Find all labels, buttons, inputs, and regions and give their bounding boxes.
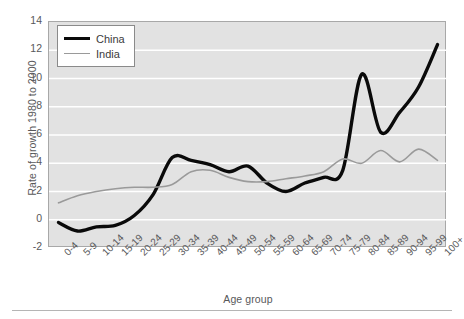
x-tick-label: 95-99	[423, 250, 431, 258]
series-line-india	[58, 149, 437, 203]
x-tick-label: 75-79	[347, 250, 355, 258]
x-tick-label: 25-29	[157, 250, 165, 258]
chart-legend: China India	[57, 25, 135, 67]
x-tick-label: 30-34	[176, 250, 184, 258]
data-series-layer	[58, 45, 437, 232]
y-tick-label: 14	[12, 14, 42, 26]
x-tick-label: 100+	[442, 250, 450, 258]
series-line-china	[58, 45, 437, 232]
x-tick-label: 85-89	[385, 250, 393, 258]
x-tick-label: 10-14	[100, 250, 108, 258]
x-tick-label: 90-94	[404, 250, 412, 258]
x-tick-label: 0-4	[62, 250, 70, 258]
y-tick-label: 10	[12, 71, 42, 83]
x-tick-label: 60-64	[290, 250, 298, 258]
y-tick-label: 6	[12, 127, 42, 139]
chart-figure: Rate of growth 1980 to 2000 -20246810121…	[0, 0, 464, 319]
footer-divider	[12, 310, 452, 311]
x-tick-label: 15-19	[119, 250, 127, 258]
legend-line-icon-china	[64, 34, 90, 44]
x-tick-label: 20-24	[138, 250, 146, 258]
x-tick-label: 40-44	[214, 250, 222, 258]
y-tick-label: 4	[12, 155, 42, 167]
x-tick-label: 50-54	[252, 250, 260, 258]
x-tick-label: 35-39	[195, 250, 203, 258]
x-tick-label: 70-74	[328, 250, 336, 258]
legend-label-china: China	[96, 33, 125, 45]
gridlines	[49, 50, 447, 220]
x-axis-title: Age group	[48, 293, 448, 305]
x-tick-label: 45-49	[233, 250, 241, 258]
y-tick-label: -2	[12, 240, 42, 252]
y-tick-label: 12	[12, 42, 42, 54]
legend-line-icon-india	[64, 49, 90, 59]
legend-item-india: India	[64, 46, 125, 61]
x-tick-label: 55-59	[271, 250, 279, 258]
legend-label-india: India	[96, 48, 120, 60]
x-tick-label: 65-69	[309, 250, 317, 258]
x-tick-label: 5-9	[81, 250, 89, 258]
legend-item-china: China	[64, 31, 125, 46]
x-tick-label: 80-84	[366, 250, 374, 258]
y-tick-label: 8	[12, 99, 42, 111]
y-tick-label: 2	[12, 184, 42, 196]
y-tick-label: 0	[12, 212, 42, 224]
